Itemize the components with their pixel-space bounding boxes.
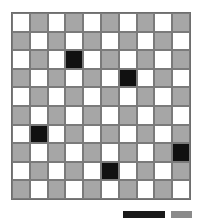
board-cell[interactable] (30, 87, 48, 106)
board-cell-filled[interactable] (101, 162, 119, 181)
board-cell[interactable] (172, 180, 190, 199)
board-cell[interactable] (137, 87, 155, 106)
board-cell[interactable] (101, 69, 119, 88)
board-cell[interactable] (12, 106, 30, 125)
board-cell[interactable] (137, 125, 155, 144)
board-cell[interactable] (12, 50, 30, 69)
board-cell[interactable] (137, 162, 155, 181)
board-cell[interactable] (137, 50, 155, 69)
board-cell[interactable] (137, 32, 155, 51)
board-cell[interactable] (154, 50, 172, 69)
board-cell-filled[interactable] (172, 143, 190, 162)
board-cell[interactable] (154, 13, 172, 32)
board-cell[interactable] (48, 87, 66, 106)
board-cell[interactable] (154, 106, 172, 125)
board-cell[interactable] (30, 180, 48, 199)
board-cell[interactable] (137, 69, 155, 88)
board-cell[interactable] (137, 143, 155, 162)
board-cell[interactable] (101, 143, 119, 162)
board-cell-filled[interactable] (30, 125, 48, 144)
board-cell[interactable] (48, 106, 66, 125)
board-cell[interactable] (119, 106, 137, 125)
board-cell[interactable] (137, 106, 155, 125)
board-cell[interactable] (172, 162, 190, 181)
board-cell[interactable] (12, 143, 30, 162)
board-cell[interactable] (154, 180, 172, 199)
board-cell[interactable] (101, 32, 119, 51)
board-cell[interactable] (48, 50, 66, 69)
board-cell[interactable] (30, 69, 48, 88)
board-cell[interactable] (101, 180, 119, 199)
board-cell[interactable] (12, 180, 30, 199)
board-cell[interactable] (137, 13, 155, 32)
board-cell[interactable] (30, 106, 48, 125)
board-cell[interactable] (48, 13, 66, 32)
board-cell[interactable] (48, 162, 66, 181)
board-cell[interactable] (12, 32, 30, 51)
board-cell[interactable] (48, 180, 66, 199)
board-cell[interactable] (12, 87, 30, 106)
board-cell-filled[interactable] (65, 50, 83, 69)
board-cell[interactable] (119, 143, 137, 162)
board-cell[interactable] (101, 87, 119, 106)
board-cell[interactable] (172, 106, 190, 125)
board-cell[interactable] (30, 162, 48, 181)
board-cell[interactable] (12, 125, 30, 144)
board-cell[interactable] (172, 125, 190, 144)
board-cell[interactable] (137, 180, 155, 199)
board-cell[interactable] (154, 162, 172, 181)
board-cell[interactable] (65, 32, 83, 51)
board-cell[interactable] (30, 13, 48, 32)
board-cell[interactable] (12, 69, 30, 88)
board-cell[interactable] (101, 50, 119, 69)
board-cell[interactable] (83, 13, 101, 32)
board-cell[interactable] (154, 32, 172, 51)
board-cell[interactable] (83, 87, 101, 106)
board-cell[interactable] (119, 125, 137, 144)
board-cell[interactable] (83, 106, 101, 125)
board-cell[interactable] (119, 180, 137, 199)
board-cell[interactable] (101, 125, 119, 144)
board-cell[interactable] (83, 162, 101, 181)
board-cell[interactable] (48, 69, 66, 88)
board-cell[interactable] (83, 125, 101, 144)
board-cell[interactable] (48, 143, 66, 162)
board-cell[interactable] (101, 106, 119, 125)
board-cell[interactable] (172, 32, 190, 51)
board-cell[interactable] (65, 87, 83, 106)
board-cell[interactable] (154, 143, 172, 162)
board-cell[interactable] (154, 125, 172, 144)
board-cell[interactable] (65, 69, 83, 88)
board-cell[interactable] (154, 87, 172, 106)
board-cell[interactable] (172, 13, 190, 32)
board-cell[interactable] (119, 13, 137, 32)
board-cell[interactable] (65, 13, 83, 32)
board-cell[interactable] (30, 50, 48, 69)
board-cell[interactable] (83, 69, 101, 88)
board-cell[interactable] (12, 162, 30, 181)
board-cell[interactable] (30, 32, 48, 51)
board-cell[interactable] (172, 69, 190, 88)
board-cell[interactable] (65, 125, 83, 144)
board-cell[interactable] (65, 106, 83, 125)
board-cell[interactable] (12, 13, 30, 32)
board-cell-filled[interactable] (119, 69, 137, 88)
board-cell[interactable] (154, 69, 172, 88)
board-cell[interactable] (83, 32, 101, 51)
board-cell[interactable] (65, 162, 83, 181)
board-cell[interactable] (48, 125, 66, 144)
board-cell[interactable] (83, 180, 101, 199)
board-cell[interactable] (119, 87, 137, 106)
board-cell[interactable] (119, 162, 137, 181)
board-cell[interactable] (30, 143, 48, 162)
board-cell[interactable] (83, 143, 101, 162)
board-cell[interactable] (65, 180, 83, 199)
board-cell[interactable] (65, 143, 83, 162)
board-cell[interactable] (83, 50, 101, 69)
board-cell[interactable] (172, 50, 190, 69)
board-cell[interactable] (101, 13, 119, 32)
board-cell[interactable] (119, 32, 137, 51)
board-cell[interactable] (172, 87, 190, 106)
board-cell[interactable] (48, 32, 66, 51)
board-cell[interactable] (119, 50, 137, 69)
